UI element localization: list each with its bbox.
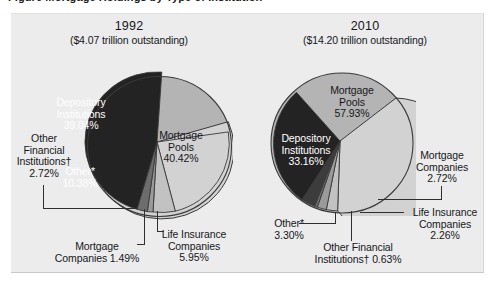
leader-line-life-insurance-2010-horizontal: [360, 212, 404, 213]
pie-chart-1992: 1992 ($4.07 trillion outstanding): [11, 13, 247, 272]
slice-label-line1: Other Financial: [293, 242, 423, 254]
slice-label-line1: Life Insurance: [155, 229, 233, 241]
slice-label-value: 5.95%: [155, 252, 233, 264]
leader-line-other-2010-horizontal: [299, 223, 336, 224]
leader-line-other-2010: [335, 213, 336, 224]
slice-label-life-insurance-2010: Life Insurance Companies 2.26%: [407, 207, 483, 242]
figure-panel: 1992 ($4.07 trillion outstanding): [11, 13, 484, 273]
slice-label-other-financial-institutions-2010: Other Financial Institutions† 0.63%: [293, 242, 423, 265]
clipped-figure-title: Figure Mortgage Holdings by Type of Inst…: [8, 0, 488, 5]
slice-label-line2: Institutions† 0.63%: [293, 254, 423, 266]
leader-line-mortgage-companies-1992: [144, 209, 145, 244]
slice-label-mortgage-companies-2010: Mortgage Companies 2.72%: [403, 150, 481, 185]
chart-subtitle-2010: ($14.20 trillion outstanding): [247, 34, 483, 46]
leader-line-mortgage-companies-2010-horizontal: [378, 199, 442, 200]
slice-label-life-insurance-1992: Life Insurance Companies 5.95%: [155, 229, 233, 264]
slice-label-value: 2.26%: [407, 230, 483, 242]
slice-label-line1: Mortgage: [38, 241, 156, 253]
slice-label-line1: Life Insurance: [407, 207, 483, 219]
pie-graphic-1992: [81, 68, 233, 220]
pie-graphic-2010: [266, 66, 416, 216]
slice-label-value: 3.30%: [263, 230, 315, 242]
chart-title-2010: 2010: [247, 19, 483, 33]
leader-line-ofi-1992: [43, 185, 44, 209]
slice-label-other-2010: Other* 3.30%: [263, 218, 315, 241]
leader-line-ofi-1992-horizontal: [43, 208, 136, 209]
leader-line-life-insurance-1992-horizontal: [157, 231, 164, 232]
leader-line-life-insurance-1992: [157, 211, 158, 231]
chart-title-1992: 1992: [11, 19, 247, 33]
leader-line-mortgage-companies-1992-horizontal: [137, 244, 145, 245]
slice-label-line1: Mortgage: [403, 150, 481, 162]
chart-subtitle-1992: ($4.07 trillion outstanding): [11, 34, 247, 46]
slice-label-value: 2.72%: [403, 173, 481, 185]
leader-line-ofi-2010: [351, 211, 352, 241]
slice-label-line1: Other: [13, 133, 75, 145]
slice-label-other-financial-institutions-1992: Other Financial Institutions† 2.72%: [13, 133, 75, 179]
slice-label-line2: Companies 1.49%: [38, 253, 156, 265]
slice-label-value: 2.72%: [13, 168, 75, 180]
leader-line-mortgage-companies-2010: [441, 186, 442, 199]
pie-chart-2010: 2010 ($14.20 trillion outstanding): [247, 13, 483, 272]
